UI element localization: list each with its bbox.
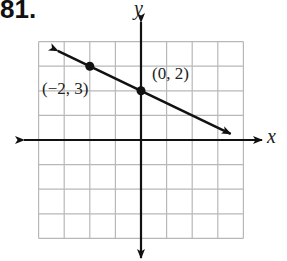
point-label-neg2-3: (−2, 3) (42, 79, 88, 99)
x-axis-label: x (267, 125, 276, 148)
y-axis-label: y (134, 0, 143, 20)
point-0-2 (137, 86, 146, 95)
coordinate-plane (0, 0, 287, 261)
point-label-0-2: (0, 2) (152, 64, 189, 84)
point-neg2-3 (85, 62, 94, 71)
